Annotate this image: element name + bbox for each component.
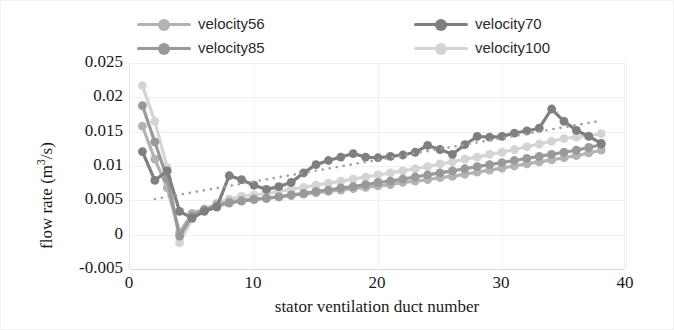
series-velocity100: [138, 81, 606, 247]
legend-swatch-velocity56: [137, 17, 191, 31]
series-velocity56: [138, 122, 606, 237]
series-velocity85: [138, 101, 606, 240]
x-axis-title: stator ventilation duct number: [129, 297, 625, 317]
y-tick-label: 0.015: [85, 121, 123, 141]
y-tick-label: 0: [115, 224, 124, 244]
y-tick-label: 0.01: [93, 155, 123, 175]
legend-item-velocity85[interactable]: velocity85: [137, 39, 265, 56]
y-tick-label: 0.005: [85, 189, 123, 209]
legend-label-velocity70: velocity70: [475, 15, 542, 32]
y-tick-label: 0.02: [93, 86, 123, 106]
legend-label-velocity100: velocity100: [475, 39, 550, 56]
x-tick-label: 40: [617, 273, 634, 293]
chart-canvas: [130, 63, 626, 269]
legend-label-velocity85: velocity85: [198, 39, 265, 56]
legend-item-velocity100[interactable]: velocity100: [414, 39, 550, 56]
chart-legend: velocity56 velocity85 velocity70 velocit…: [129, 15, 629, 63]
legend-item-velocity56[interactable]: velocity56: [137, 15, 265, 32]
legend-label-velocity56: velocity56: [198, 15, 265, 32]
x-tick-label: 20: [369, 273, 386, 293]
x-tick-label: 30: [493, 273, 510, 293]
chart-figure: velocity56 velocity85 velocity70 velocit…: [0, 0, 674, 330]
y-tick-label: -0.005: [79, 258, 123, 278]
gridline-vertical: [626, 63, 627, 269]
x-tick-label: 10: [245, 273, 262, 293]
x-axis-tick-labels: 010203040: [129, 273, 625, 297]
gridline-horizontal: [130, 269, 624, 270]
legend-swatch-velocity85: [137, 41, 191, 55]
plot-area: [129, 63, 625, 269]
y-axis-title: flow rate (m3/s): [35, 89, 57, 249]
y-tick-label: 0.025: [85, 52, 123, 72]
x-tick-label: 0: [125, 273, 134, 293]
legend-swatch-velocity100: [414, 41, 468, 55]
legend-item-velocity70[interactable]: velocity70: [414, 15, 542, 32]
legend-swatch-velocity70: [414, 17, 468, 31]
